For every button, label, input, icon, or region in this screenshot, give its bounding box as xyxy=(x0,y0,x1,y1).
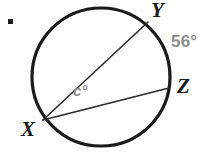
chord-xy-line xyxy=(43,22,148,120)
vertex-label-x: X xyxy=(21,119,35,140)
vertex-label-y: Y xyxy=(151,0,164,21)
vertex-label-z: Z xyxy=(177,76,190,97)
circle-outline xyxy=(32,8,170,146)
arc-measure-label: 56° xyxy=(171,33,197,50)
angle-measure-label: c° xyxy=(73,83,87,98)
chord-xz-line xyxy=(43,88,169,120)
geometry-figure: Y Z X 56° c° xyxy=(0,0,203,155)
